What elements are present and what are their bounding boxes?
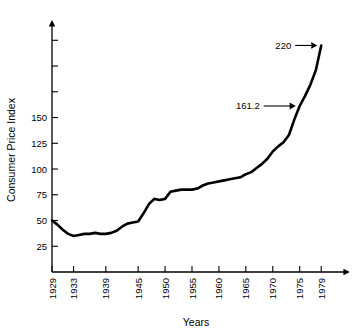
y-axis-tick-labels: 255075100125150 [31,112,47,252]
y-tick-label: 75 [36,189,47,200]
y-axis-ticks [52,40,58,246]
x-tick-label: 1975 [294,278,305,299]
x-tick-label: 1960 [213,278,224,299]
cpi-curve [52,45,321,236]
y-tick-label: 125 [31,138,47,149]
x-tick-label: 1965 [240,278,251,299]
x-tick-label: 1933 [68,278,79,299]
chart-container: 255075100125150 Consumer Price Index 192… [0,0,359,334]
x-tick-label: 1929 [47,278,58,299]
x-axis-group: 1929193319391945195019551960196519701975… [47,266,349,328]
x-axis-title: Years [183,316,209,328]
annotation-220: 220 [275,40,317,51]
y-tick-label: 50 [36,215,47,226]
x-tick-label: 1945 [133,278,144,299]
annotation-label: 220 [275,40,291,51]
y-tick-label: 150 [31,112,47,123]
x-tick-label: 1950 [160,278,171,299]
x-tick-label: 1955 [187,278,198,299]
annotation-arrow-head [290,103,296,110]
y-axis-title: Consumer Price Index [5,97,17,202]
x-tick-label: 1970 [267,278,278,299]
annotation-label: 161.2 [236,100,260,111]
x-axis-tick-labels: 1929193319391945195019551960196519701975… [47,278,327,299]
data-series-group [52,45,321,236]
annotation-161.2: 161.2 [236,100,296,111]
chart-annotations: 220161.2 [236,40,317,112]
cpi-line-chart: 255075100125150 Consumer Price Index 192… [0,0,359,334]
x-axis-ticks [52,266,321,272]
y-axis-group: 255075100125150 Consumer Price Index [5,22,58,272]
y-tick-label: 100 [31,164,47,175]
annotation-arrow-head [311,42,317,49]
y-tick-label: 25 [36,241,47,252]
x-tick-label: 1939 [100,278,111,299]
x-tick-label: 1979 [316,278,327,299]
